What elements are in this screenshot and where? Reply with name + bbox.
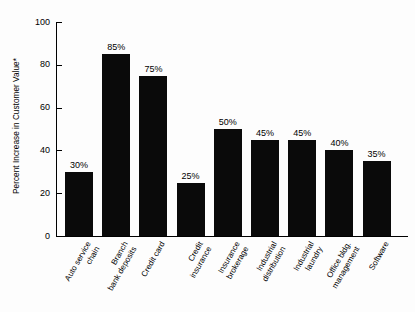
- plot-area: 30%85%75%25%50%45%45%40%35%: [56, 22, 408, 236]
- bar: [177, 183, 205, 237]
- y-tick-label: 40: [16, 146, 50, 155]
- bar-value-label: 25%: [171, 171, 211, 181]
- y-tick-label: 100: [16, 18, 50, 27]
- x-axis-line: [56, 236, 408, 237]
- bar-value-label: 45%: [282, 128, 322, 138]
- bar-chart: Percent Increase in Customer Value* 0204…: [0, 0, 415, 312]
- y-tick-label: 0: [16, 232, 50, 241]
- bar-value-label: 40%: [319, 138, 359, 148]
- bar-value-label: 35%: [357, 149, 397, 159]
- bar: [214, 129, 242, 236]
- bar: [65, 172, 93, 236]
- bar-value-label: 45%: [245, 128, 285, 138]
- bar: [325, 150, 353, 236]
- bar-value-label: 30%: [59, 160, 99, 170]
- bar: [139, 76, 167, 237]
- bar: [288, 140, 316, 236]
- bar-value-label: 85%: [96, 42, 136, 52]
- bar-value-label: 75%: [133, 64, 173, 74]
- y-tick-label: 60: [16, 103, 50, 112]
- y-tick-label: 20: [16, 189, 50, 198]
- y-tick-label: 80: [16, 60, 50, 69]
- bar: [102, 54, 130, 236]
- y-tick-mark: [56, 236, 62, 237]
- bar: [251, 140, 279, 236]
- bar: [363, 161, 391, 236]
- bar-value-label: 50%: [208, 117, 248, 127]
